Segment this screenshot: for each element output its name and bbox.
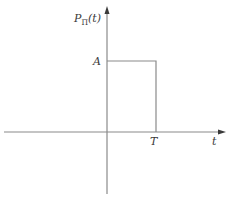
pulse-diagram: PΠ(t) A T t: [0, 0, 242, 197]
y-axis-arrow-icon: [105, 6, 110, 14]
x-axis-arrow-icon: [218, 130, 226, 135]
amplitude-label: A: [92, 55, 101, 68]
pulse-waveform: [107, 61, 156, 132]
duration-label: T: [150, 135, 159, 148]
y-axis-label: PΠ(t): [73, 12, 101, 27]
x-axis-label: t: [212, 135, 217, 148]
